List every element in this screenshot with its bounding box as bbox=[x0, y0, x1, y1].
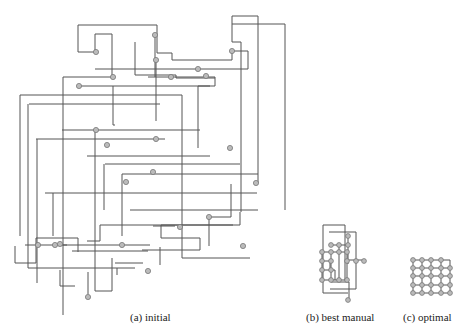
node bbox=[439, 266, 444, 271]
node bbox=[320, 259, 325, 264]
node bbox=[411, 266, 416, 271]
node bbox=[439, 258, 444, 263]
caption-initial: (a) initial bbox=[130, 311, 171, 323]
node bbox=[345, 278, 350, 283]
edge bbox=[60, 270, 75, 286]
node bbox=[177, 224, 182, 229]
node bbox=[345, 250, 350, 255]
node bbox=[153, 136, 158, 141]
edge bbox=[28, 104, 135, 268]
node bbox=[150, 169, 155, 174]
node bbox=[206, 214, 211, 219]
node bbox=[329, 268, 334, 273]
figure-canvas bbox=[0, 0, 471, 334]
panel-b-graph bbox=[322, 225, 365, 300]
node bbox=[104, 142, 109, 147]
node bbox=[203, 73, 208, 78]
node bbox=[429, 283, 434, 288]
node bbox=[411, 283, 416, 288]
node bbox=[429, 266, 434, 271]
caption-optimal: (c) optimal bbox=[403, 311, 452, 323]
node bbox=[329, 243, 334, 248]
node bbox=[85, 294, 90, 299]
node bbox=[337, 250, 342, 255]
node bbox=[354, 259, 359, 264]
node bbox=[448, 283, 453, 288]
node bbox=[337, 278, 342, 283]
node bbox=[346, 298, 351, 303]
node bbox=[362, 259, 367, 264]
node bbox=[123, 179, 128, 184]
node bbox=[195, 66, 200, 71]
node bbox=[411, 274, 416, 279]
node bbox=[346, 243, 351, 248]
node bbox=[320, 268, 325, 273]
node bbox=[329, 278, 334, 283]
node bbox=[168, 74, 173, 79]
node bbox=[110, 74, 115, 79]
edge bbox=[142, 225, 233, 250]
node bbox=[320, 278, 325, 283]
node bbox=[145, 268, 150, 273]
node bbox=[411, 258, 416, 263]
edge bbox=[232, 16, 258, 183]
edge bbox=[232, 16, 241, 212]
node bbox=[429, 291, 434, 296]
node bbox=[420, 291, 425, 296]
node bbox=[429, 258, 434, 263]
node bbox=[93, 127, 98, 132]
edge bbox=[113, 86, 115, 125]
node bbox=[227, 145, 232, 150]
node bbox=[448, 291, 453, 296]
node bbox=[153, 57, 158, 62]
node bbox=[57, 241, 62, 246]
node bbox=[429, 274, 434, 279]
panel-b-nodes bbox=[320, 234, 367, 303]
node bbox=[420, 266, 425, 271]
node bbox=[420, 258, 425, 263]
edge bbox=[323, 225, 348, 293]
node bbox=[439, 283, 444, 288]
node bbox=[119, 242, 124, 247]
node bbox=[411, 291, 416, 296]
node bbox=[229, 48, 234, 53]
panel-a-nodes bbox=[35, 32, 258, 299]
node bbox=[240, 243, 245, 248]
edge bbox=[331, 282, 349, 300]
node bbox=[345, 259, 350, 264]
node bbox=[329, 250, 334, 255]
node bbox=[420, 274, 425, 279]
node bbox=[152, 32, 157, 37]
node bbox=[420, 283, 425, 288]
node bbox=[439, 274, 444, 279]
node bbox=[52, 242, 57, 247]
caption-best-manual: (b) best manual bbox=[306, 311, 374, 323]
node bbox=[448, 266, 453, 271]
edge bbox=[95, 130, 112, 291]
edge bbox=[20, 95, 250, 258]
node bbox=[448, 274, 453, 279]
node bbox=[320, 250, 325, 255]
node bbox=[346, 234, 351, 239]
node bbox=[329, 259, 334, 264]
edge bbox=[15, 238, 78, 263]
node bbox=[35, 242, 40, 247]
edge bbox=[209, 184, 231, 217]
node bbox=[439, 291, 444, 296]
node bbox=[337, 243, 342, 248]
node bbox=[76, 83, 81, 88]
node bbox=[93, 49, 98, 54]
node bbox=[253, 180, 258, 185]
